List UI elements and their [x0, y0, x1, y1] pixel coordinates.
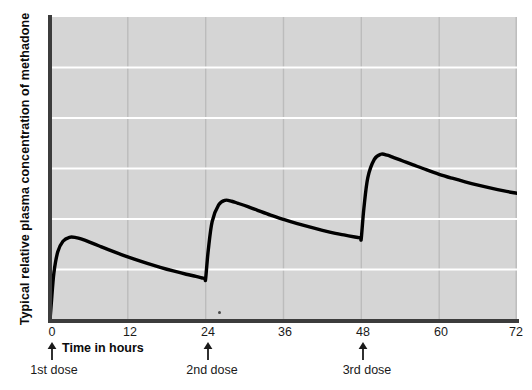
- dose-arrow-1-icon: [46, 342, 58, 360]
- scan-speck: [218, 311, 221, 314]
- x-tick-24: 24: [201, 325, 215, 339]
- x-tick-60: 60: [434, 325, 448, 339]
- dose-label-3: 3rd dose: [343, 363, 392, 377]
- dose-arrow-2-icon: [202, 342, 214, 360]
- x-tick-48: 48: [356, 325, 370, 339]
- x-tick-36: 36: [278, 325, 292, 339]
- x-tick-72: 72: [509, 325, 523, 339]
- x-axis-label: Time in hours: [62, 341, 144, 355]
- y-axis-line: [48, 15, 52, 322]
- methadone-concentration-figure: Typical relative plasma concentration of…: [0, 0, 532, 390]
- x-tick-0: 0: [49, 325, 56, 339]
- x-tick-12: 12: [123, 325, 137, 339]
- dose-arrow-3-icon: [357, 342, 369, 360]
- plot-svg: [50, 17, 517, 320]
- plot-area: [50, 17, 517, 320]
- dose-label-2: 2nd dose: [186, 363, 237, 377]
- y-axis-label-text: Typical relative plasma concentration of…: [18, 12, 32, 325]
- dose-label-1: 1st dose: [30, 363, 77, 377]
- x-axis-line: [48, 319, 519, 323]
- y-axis-label: Typical relative plasma concentration of…: [14, 17, 36, 320]
